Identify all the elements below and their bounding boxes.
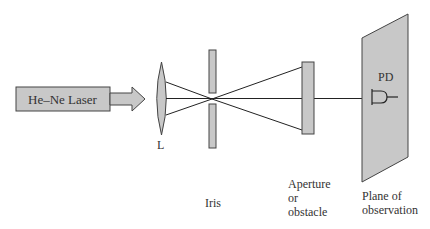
aperture-label-line2: or bbox=[288, 191, 298, 205]
diagram-canvas: He–Ne Laser L Iris Aperture or obstacle … bbox=[0, 0, 430, 229]
laser-label: He–Ne Laser bbox=[28, 92, 98, 107]
observation-plane: Plane of observation bbox=[362, 14, 418, 217]
laser: He–Ne Laser bbox=[16, 87, 110, 111]
photodetector-label: PD bbox=[378, 70, 394, 84]
lens-label: L bbox=[157, 138, 164, 152]
iris-label: Iris bbox=[205, 196, 221, 210]
aperture: Aperture or obstacle bbox=[288, 62, 331, 219]
aperture-label-line1: Aperture bbox=[288, 177, 331, 191]
plane-label-line2: observation bbox=[362, 203, 418, 217]
iris: Iris bbox=[205, 50, 221, 210]
lens: L bbox=[157, 62, 167, 152]
plane-label-line1: Plane of bbox=[362, 189, 402, 203]
beam-rays bbox=[166, 67, 362, 130]
aperture-label-line3: obstacle bbox=[288, 205, 327, 219]
beam-arrow-icon bbox=[110, 87, 145, 111]
